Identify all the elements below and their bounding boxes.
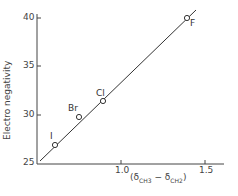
- y-tick-label-2-5: 25: [23, 157, 34, 167]
- y-tick-label-3-0: 30: [23, 109, 34, 119]
- data-point-i: [52, 142, 57, 147]
- fit-line: [40, 10, 196, 161]
- point-label-i: I: [50, 131, 53, 141]
- data-point-f: [184, 15, 189, 20]
- point-label-br: Br: [68, 103, 78, 113]
- point-label-cl: Cl: [96, 88, 105, 98]
- x-tick-label-1-5: 1.5: [199, 165, 213, 175]
- x-axis-label: (δCH3 − δCH2): [130, 172, 186, 184]
- y-tick-label-3-5: 35: [23, 60, 34, 70]
- data-point-br: [76, 114, 81, 119]
- x-tick-label-1-0: 1.0: [115, 165, 129, 175]
- data-point-cl: [100, 98, 105, 103]
- point-label-f: F: [190, 18, 195, 28]
- y-axis-label: Electro negativity: [2, 61, 12, 140]
- y-tick-label-4-0: 40: [23, 12, 34, 22]
